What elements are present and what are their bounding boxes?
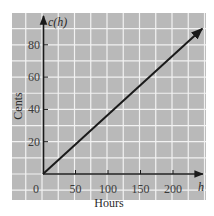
origin-label: 0 bbox=[33, 182, 39, 196]
chart: 50100150200 20406080 0 c(h) h Cents Hour… bbox=[0, 0, 214, 216]
x-tick-label: 150 bbox=[132, 182, 150, 196]
x-tick-label: 50 bbox=[70, 182, 82, 196]
y-tick-label: 40 bbox=[28, 102, 40, 116]
y-axis-variable: c(h) bbox=[48, 15, 67, 29]
plot-panel bbox=[12, 13, 206, 200]
x-tick-label: 100 bbox=[99, 182, 117, 196]
y-tick-label: 20 bbox=[28, 135, 40, 149]
y-tick-label: 60 bbox=[28, 70, 40, 84]
x-axis-title: Hours bbox=[94, 196, 124, 210]
y-axis-title: Cents bbox=[11, 92, 25, 120]
x-axis-variable: h bbox=[198, 180, 204, 194]
x-tick-label: 200 bbox=[164, 182, 182, 196]
y-tick-label: 80 bbox=[28, 38, 40, 52]
